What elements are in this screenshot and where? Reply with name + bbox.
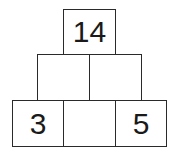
pyramid-bottom-cell-right: 5 — [115, 100, 167, 147]
pyramid-top-cell: 14 — [63, 9, 116, 55]
pyramid-middle-cell-right — [89, 54, 142, 101]
pyramid-bottom-cell-left: 3 — [12, 100, 64, 147]
pyramid-middle-cell-left — [37, 54, 90, 101]
pyramid-bottom-cell-middle — [63, 100, 116, 147]
